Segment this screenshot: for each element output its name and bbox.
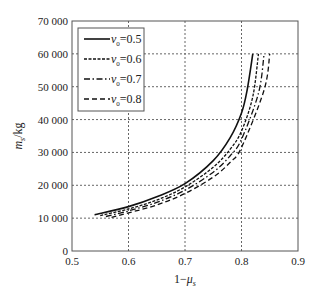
y-tick-label: 70 000 — [38, 15, 69, 27]
legend-entry: ν0=0.5 — [111, 32, 142, 48]
x-axis-label: 1−μs — [174, 272, 196, 288]
x-axis-ticks: 0.50.60.70.80.9 — [65, 255, 305, 267]
legend: ν0=0.5ν0=0.6ν0=0.7ν0=0.8 — [78, 28, 144, 111]
x-tick-label: 0.5 — [65, 255, 79, 267]
y-tick-label: 40 000 — [38, 114, 69, 126]
y-axis-label: ms/kg — [11, 122, 27, 149]
x-tick-label: 0.7 — [178, 255, 192, 267]
legend-entry: ν0=0.7 — [111, 72, 142, 88]
y-tick-label: 60 000 — [38, 48, 69, 60]
x-tick-label: 0.8 — [235, 255, 249, 267]
legend-entry: ν0=0.8 — [111, 92, 142, 108]
y-tick-label: 50 000 — [38, 81, 69, 93]
y-tick-label: 10 000 — [38, 212, 69, 224]
y-axis-ticks: 010 00020 00030 00040 00050 00060 00070 … — [38, 15, 69, 257]
line-chart: 010 00020 00030 00040 00050 00060 00070 … — [0, 0, 320, 296]
y-tick-label: 20 000 — [38, 179, 69, 191]
x-tick-label: 0.6 — [122, 255, 136, 267]
legend-entry: ν0=0.6 — [111, 52, 142, 68]
y-tick-label: 30 000 — [38, 146, 69, 158]
x-tick-label: 0.9 — [291, 255, 305, 267]
